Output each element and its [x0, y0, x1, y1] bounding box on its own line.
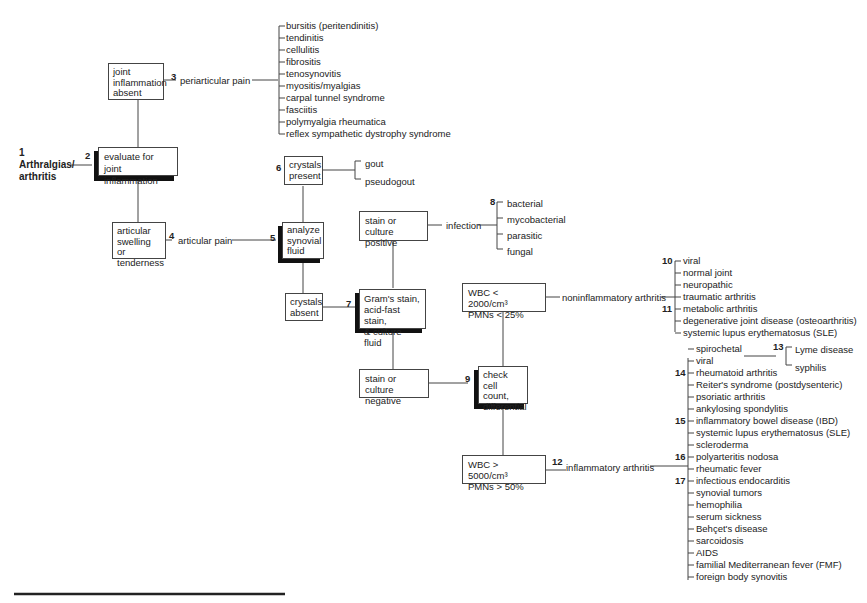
periarticular-diagnosis-list: bursitis (peritendinitis)tendinitiscellu… [286, 20, 451, 140]
list-item: ankylosing spondylitis [696, 403, 850, 415]
step-number-11: 11 [662, 303, 672, 314]
box-text: acid-fast stain, [364, 304, 421, 326]
box-text: present [289, 171, 318, 182]
list-item: sarcoidosis [696, 535, 850, 547]
list-item: systemic lupus erythematosus (SLE) [696, 427, 850, 439]
list-item: pseudogout [365, 173, 415, 191]
list-item: neuropathic [683, 279, 857, 291]
list-item: inflammatory bowel disease (IBD) [696, 415, 850, 427]
inflammatory-arthritis-label: inflammatory arthritis [566, 462, 654, 473]
list-item: viral [683, 255, 857, 267]
articular-swelling-box: articular swelling or tenderness [112, 222, 166, 259]
box-text: swelling or [117, 237, 161, 258]
noninflammatory-diagnosis-list: viralnormal jointneuropathictraumatic ar… [683, 255, 857, 339]
step-number-7: 7 [346, 298, 351, 309]
list-item: foreign body synovitis [696, 571, 850, 583]
step-number-12: 12 [552, 456, 563, 467]
infection-diagnosis-list: bacterial mycobacterial parasitic fungal [507, 196, 566, 260]
box-text: absent [290, 308, 318, 319]
list-item: systemic lupus erythematosus (SLE) [683, 327, 857, 339]
list-item: parasitic [507, 228, 566, 244]
list-item: myositis/myalgias [286, 80, 451, 92]
step-number-10: 10 [662, 255, 673, 266]
box-text: check [483, 370, 523, 381]
list-item: infectious endocarditis [696, 475, 850, 487]
spirochetal-diagnosis-list: Lyme disease syphilis [795, 341, 853, 377]
list-item: psoriatic arthritis [696, 391, 850, 403]
list-item: fungal [507, 244, 566, 260]
list-item: Reiter's syndrome (postdysenteric) [696, 379, 850, 391]
step-number-14: 14 [675, 367, 686, 378]
step-number-15: 15 [675, 415, 686, 426]
list-item: Lyme disease [795, 341, 853, 359]
box-text: crystals [290, 297, 318, 308]
box-text: evaluate for [104, 151, 172, 163]
list-item: carpal tunnel syndrome [286, 92, 451, 104]
noninflammatory-arthritis-label: noninflammatory arthritis [562, 292, 666, 303]
step-number-2: 2 [85, 150, 90, 161]
box-text: PMNs < 25% [468, 309, 540, 320]
box-text: absent [113, 88, 159, 99]
list-item: gout [365, 155, 415, 173]
list-item: fasciitis [286, 104, 451, 116]
list-item: syphilis [795, 359, 853, 377]
box-text: PMNs > 50% [468, 481, 540, 492]
list-item: polyarteritis nodosa [696, 451, 850, 463]
start-node: 1 Arthralgias/ arthritis [19, 147, 75, 183]
inflammatory-diagnosis-list: spirochetalviralrheumatoid arthritisReit… [696, 343, 850, 583]
step-number-16: 16 [675, 451, 686, 462]
box-text: crystals [289, 160, 318, 171]
box-text: stain or culture [365, 373, 423, 395]
step-number-5: 5 [270, 232, 275, 243]
wbc-high-box: WBC > 5000/cm³ PMNs > 50% [462, 455, 546, 484]
list-item: hemophilia [696, 499, 850, 511]
list-item: scleroderma [696, 439, 850, 451]
step-number-9: 9 [465, 373, 470, 384]
box-text: fluid [287, 246, 319, 257]
list-item: familial Mediterranean fever (FMF) [696, 559, 850, 571]
joint-inflammation-absent-box: joint inflammation absent [108, 63, 164, 100]
list-item: AIDS [696, 547, 850, 559]
list-item: traumatic arthritis [683, 291, 857, 303]
list-item: normal joint [683, 267, 857, 279]
list-item: polymyalgia rheumatica [286, 116, 451, 128]
box-text: stain or culture [365, 215, 422, 237]
crystals-absent-box: crystals absent [285, 293, 323, 321]
list-item: degenerative joint disease (osteoarthrit… [683, 315, 857, 327]
box-text: joint [113, 67, 159, 78]
box-text: positive [365, 237, 422, 248]
stain-culture-positive-box: stain or culture positive [359, 211, 428, 241]
step-number-13: 13 [773, 341, 784, 352]
list-item: cellulitis [286, 44, 451, 56]
box-text: joint inflammation [104, 163, 172, 187]
crystals-present-box: crystals present [284, 156, 323, 185]
list-item: mycobacterial [507, 212, 566, 228]
crystal-diagnosis-list: gout pseudogout [365, 155, 415, 191]
infection-label: infection [446, 220, 481, 231]
list-item: bursitis (peritendinitis) [286, 20, 451, 32]
list-item: rheumatic fever [696, 463, 850, 475]
step-number-17: 17 [675, 475, 686, 486]
gram-stain-box: Gram's stain, acid-fast stain, & culture… [359, 289, 426, 329]
analyze-synovial-fluid-box: analyze synovial fluid [282, 222, 324, 259]
evaluate-joint-inflammation-box: evaluate for joint inflammation [98, 147, 178, 176]
list-item: bacterial [507, 196, 566, 212]
list-item: Behçet's disease [696, 523, 850, 535]
list-item: serum sickness [696, 511, 850, 523]
step-number-3: 3 [171, 71, 176, 82]
title-line2: arthritis [19, 171, 75, 183]
articular-pain-label: articular pain [178, 235, 232, 246]
list-item: tendinitis [286, 32, 451, 44]
step-number-1: 1 [19, 147, 75, 159]
periarticular-pain-label: periarticular pain [180, 75, 250, 86]
title-line1: Arthralgias/ [19, 159, 75, 171]
list-item: reflex sympathetic dystrophy syndrome [286, 128, 451, 140]
list-item: fibrositis [286, 56, 451, 68]
box-text: differential [483, 402, 523, 413]
list-item: tenosynovitis [286, 68, 451, 80]
box-text: cell count, [483, 381, 523, 402]
box-text: & culture fluid [364, 326, 421, 348]
step-number-6: 6 [276, 162, 281, 173]
list-item: synovial tumors [696, 487, 850, 499]
box-text: WBC < 2000/cm³ [468, 287, 540, 309]
